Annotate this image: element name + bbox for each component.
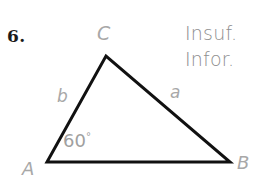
angle-measure-a: 60° bbox=[63, 132, 91, 150]
side-label-a: a bbox=[170, 84, 180, 101]
annotation-line-2: Infor. bbox=[185, 50, 234, 69]
vertex-label-c: C bbox=[97, 24, 110, 43]
worksheet-page: 6. C A B b a 60° Insuf. Infor. bbox=[0, 0, 258, 193]
degree-symbol: ° bbox=[86, 131, 91, 142]
angle-value: 60 bbox=[63, 130, 86, 151]
vertex-label-a: A bbox=[22, 160, 34, 178]
side-label-b: b bbox=[57, 88, 68, 105]
annotation-line-1: Insuf. bbox=[185, 24, 237, 43]
vertex-label-b: B bbox=[237, 154, 249, 172]
